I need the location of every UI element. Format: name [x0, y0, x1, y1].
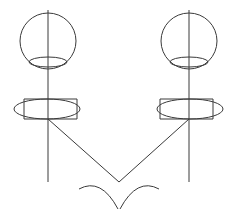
line-diagram-svg	[0, 0, 237, 209]
diagram-canvas	[0, 0, 237, 209]
right-bottom-arc	[120, 186, 159, 209]
left-bottom-arc	[79, 186, 118, 209]
left-diagonal-line	[48, 119, 119, 182]
right-diagonal-line	[119, 119, 189, 182]
left-lower-assembly	[14, 99, 80, 119]
right-lower-assembly	[157, 99, 223, 119]
